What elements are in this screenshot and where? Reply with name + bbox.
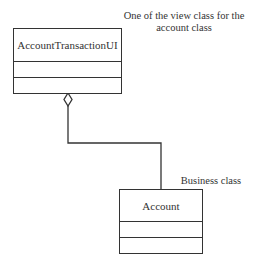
attributes-compartment	[14, 62, 121, 78]
view-class-note: One of the view class for the account cl…	[118, 10, 250, 34]
aggregation-diamond-icon	[64, 93, 72, 106]
operations-compartment	[14, 78, 121, 93]
class-name: AccountTransactionUI	[14, 29, 121, 62]
attributes-compartment	[120, 222, 202, 238]
class-account-transaction-ui: AccountTransactionUI	[13, 28, 122, 94]
business-class-note: Business class	[176, 175, 246, 187]
class-account: Account	[119, 189, 203, 254]
operations-compartment	[120, 238, 202, 253]
class-name: Account	[120, 190, 202, 222]
